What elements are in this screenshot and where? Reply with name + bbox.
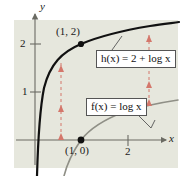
- shift-arrowhead-x1-c: [58, 65, 64, 72]
- y-axis-label: y: [40, 0, 45, 12]
- shift-arrowhead-x1-b: [58, 105, 64, 112]
- shift-arrowhead-right-b: [146, 81, 152, 88]
- figure-graph-log-shift: 2 1 2 y x (1, 2) (1, 0) h(x) = 2 + log x…: [0, 0, 185, 176]
- shift-arrowhead-right-c: [146, 35, 152, 42]
- point-label-1-0: (1, 0): [65, 144, 89, 156]
- y-tick-label-1: 1: [22, 85, 28, 97]
- f-callout-box: f(x) = log x: [86, 98, 147, 116]
- dot-1-2: [78, 41, 84, 47]
- x-tick-label-2: 2: [125, 145, 131, 157]
- graph-canvas: [0, 0, 185, 176]
- shift-arrowhead-right-a: [146, 99, 152, 106]
- h-callout-box: h(x) = 2 + log x: [96, 50, 176, 68]
- y-tick-label-2: 2: [20, 37, 26, 49]
- h-callout-leader: [112, 36, 122, 50]
- point-label-1-2: (1, 2): [56, 25, 80, 37]
- f-callout-leader: [139, 116, 155, 128]
- shift-arrowhead-x1-a: [58, 133, 64, 140]
- x-axis-label: x: [169, 132, 174, 144]
- dot-1-0: [78, 137, 85, 144]
